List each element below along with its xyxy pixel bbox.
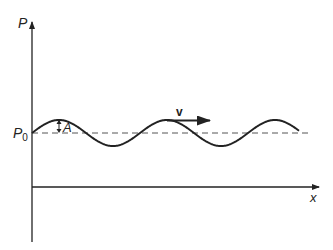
wave-diagram: P x P0 A v <box>0 0 333 250</box>
amplitude-arrowhead-down <box>57 129 62 133</box>
y-axis-label: P <box>18 15 28 31</box>
amplitude-label: A <box>62 120 72 135</box>
baseline-label: P0 <box>13 125 28 143</box>
x-axis-label: x <box>309 190 317 205</box>
velocity-label: v <box>176 105 183 119</box>
